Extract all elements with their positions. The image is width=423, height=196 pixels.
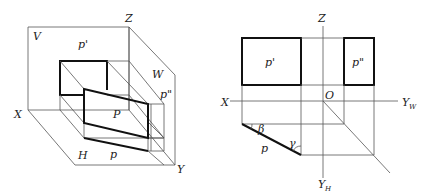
label-p-double-prime-left: p" bbox=[160, 88, 172, 101]
label-beta: β bbox=[257, 123, 264, 136]
label-p-prime-right: p' bbox=[265, 56, 275, 69]
label-y-w-sub: W bbox=[409, 103, 417, 111]
label-gamma: γ bbox=[289, 137, 296, 150]
h-plane-left-edge bbox=[28, 110, 75, 165]
label-z-left: Z bbox=[124, 12, 133, 25]
w-box-diag2 bbox=[148, 151, 164, 165]
label-h: H bbox=[77, 149, 88, 162]
label-y-h-sub: H bbox=[324, 185, 332, 193]
proj-line-1 bbox=[60, 61, 84, 89]
label-p-lower-left: p bbox=[110, 148, 117, 161]
proj-line-2 bbox=[107, 61, 148, 104]
label-x-right: X bbox=[220, 96, 230, 109]
label-p-double-prime-right: p" bbox=[352, 56, 364, 69]
projection-diagrams: Z V p' W p" X P H p Y bbox=[0, 0, 423, 196]
label-x-left: X bbox=[13, 108, 23, 121]
label-p-lower-right: p bbox=[261, 142, 268, 155]
oy-axis bbox=[129, 110, 175, 165]
label-p-plane: P bbox=[112, 108, 121, 121]
right-diagram: Z p' p" X O Y W β γ p Y H bbox=[220, 12, 417, 193]
label-p-prime-left: p' bbox=[78, 38, 88, 51]
label-v: V bbox=[33, 30, 42, 43]
proj-line-3 bbox=[60, 95, 84, 123]
construction-diagonal bbox=[323, 101, 390, 173]
label-origin: O bbox=[325, 89, 334, 102]
proj-line-4 bbox=[60, 110, 84, 138]
label-w: W bbox=[152, 68, 165, 81]
left-diagram: Z V p' W p" X P H p Y bbox=[13, 12, 186, 176]
label-y-left: Y bbox=[177, 163, 186, 176]
label-z-right: Z bbox=[317, 12, 326, 25]
